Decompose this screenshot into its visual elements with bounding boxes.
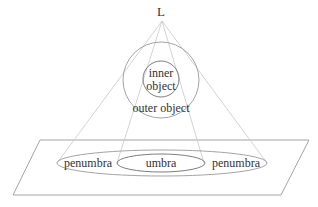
inner-object-label-2: object xyxy=(146,79,176,93)
umbra-label: umbra xyxy=(146,156,177,170)
shadow-diagram: L inner object outer object penumbra umb… xyxy=(0,0,318,207)
inner-object-label-1: inner xyxy=(149,66,174,80)
outer-object-label: outer object xyxy=(133,101,191,115)
ray-outer-right xyxy=(162,21,267,163)
penumbra-right-label: penumbra xyxy=(212,156,261,170)
penumbra-left-label: penumbra xyxy=(64,156,113,170)
light-source-label: L xyxy=(157,4,165,19)
